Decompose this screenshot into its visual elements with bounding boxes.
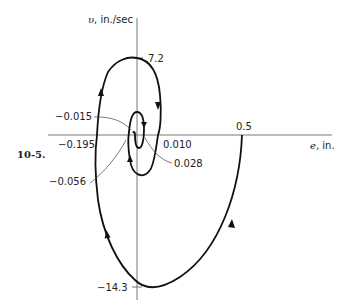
trajectory-outer <box>96 58 242 288</box>
label-left-crossing: −0.195 <box>58 139 95 150</box>
label-right-crossing: 0.010 <box>163 139 192 150</box>
leader-minus-0015 <box>97 117 131 130</box>
e-axis-label: e, in. <box>310 140 335 151</box>
v-axis-label: υ, in./sec <box>88 14 133 25</box>
label-bottom-value: −14.3 <box>97 282 128 293</box>
arrow-inner-right <box>141 122 147 128</box>
label-inner-left-lower: −0.056 <box>49 176 86 187</box>
label-start-value: 0.5 <box>236 121 252 132</box>
label-top-value: 7.2 <box>148 53 164 64</box>
arrow-right-descending <box>228 219 235 228</box>
trajectory-inner <box>128 112 150 175</box>
figure-label: 10-5. <box>17 149 46 160</box>
label-inner-left-upper: −0.015 <box>55 111 92 122</box>
arrow-inner-left <box>127 155 133 162</box>
phase-plane-diagram: υ, in./sec e, in. 7.2 −14.3 0.5 −0.195 0… <box>0 0 349 308</box>
label-inner-right-lower: 0.028 <box>174 158 203 169</box>
